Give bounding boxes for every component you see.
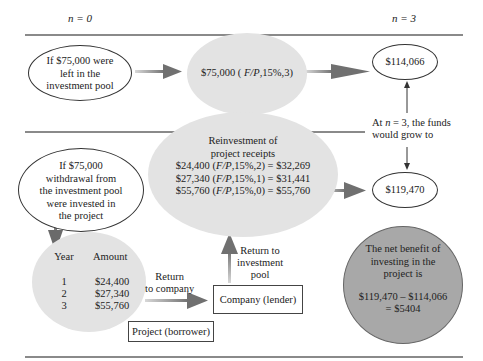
- ellipse-114066: $114,066: [372, 44, 438, 80]
- cashflow-row: 3 $55,760: [45, 300, 147, 312]
- arrow-annotation-down: [404, 147, 410, 170]
- arrow-return-to-pool: [221, 233, 238, 283]
- annotation-funds-grow: At n = 3, the funds would grow to: [372, 117, 451, 141]
- net-benefit-circle: The net benefit of investing in the proj…: [343, 226, 463, 344]
- ellipse-reinvestment: Reinvestment of project receipts $24,400…: [148, 112, 338, 237]
- reinvest-line-3: $55,760 (F/P,15%,0) = $55,760: [148, 185, 338, 198]
- ellipse-left-in-pool: If $75,000 were left in the investment p…: [28, 45, 132, 101]
- reinvest-line-2: $27,340 (F/P,15%,1) = $31,441: [148, 173, 338, 186]
- text-line: the project: [19, 210, 143, 223]
- arrow-annotation-up: [404, 81, 410, 113]
- text-line: the investment pool: [19, 185, 143, 198]
- reinvest-line-1: $24,400 (F/P,15%,2) = $32,269: [148, 160, 338, 173]
- year-cell: 1: [45, 276, 83, 288]
- text-line: project is: [344, 268, 462, 281]
- text-line: investment pool: [29, 80, 131, 93]
- value-119470: $119,470: [373, 184, 437, 197]
- arrow-left-to-middle: [135, 64, 182, 79]
- ellipse-invested-in-project: If $75,000 withdrawal from the investmen…: [18, 148, 144, 232]
- project-borrower-box: Project (borrower): [128, 321, 214, 342]
- net-benefit-result: = $5404: [344, 303, 462, 316]
- amount-cell: $27,340: [83, 288, 147, 300]
- text-line: Return: [145, 271, 194, 283]
- label-return-to-company: Return to company: [145, 271, 194, 295]
- header-amount: Amount: [83, 251, 145, 263]
- label-return-to-pool: Return to investment pool: [237, 245, 283, 281]
- year-cell: 3: [45, 300, 83, 312]
- text-line: left in the: [29, 68, 131, 81]
- text-line: The net benefit of: [344, 243, 462, 256]
- ellipse-119470: $119,470: [372, 172, 438, 208]
- year-cell: 2: [45, 288, 83, 300]
- cashflow-row: 2 $27,340: [45, 288, 147, 300]
- cashflow-header-row: Year Amount: [45, 251, 147, 263]
- annotation-line-1: At n = 3, the funds: [372, 117, 451, 129]
- text-line: If $75,000: [19, 160, 143, 173]
- amount-cell: $55,760: [83, 300, 147, 312]
- text-line: If $75,000 were: [29, 55, 131, 68]
- text-line: investment: [237, 257, 283, 269]
- text-line: to company: [145, 283, 194, 295]
- reinvest-title-2: project receipts: [148, 148, 338, 161]
- text-line: pool: [237, 269, 283, 281]
- future-value-formula: $75,000 ( F/P,15%,3): [187, 67, 307, 80]
- cashflow-table: Year Amount 1 $24,400 2 $27,340 3 $55,76…: [45, 251, 147, 312]
- ellipse-future-value: $75,000 ( F/P,15%,3): [187, 33, 307, 115]
- value-114066: $114,066: [373, 56, 437, 69]
- cashflow-row: 1 $24,400: [45, 276, 147, 288]
- text-line: withdrawal from: [19, 173, 143, 186]
- net-benefit-formula: $119,470 – $114,066: [344, 291, 462, 304]
- annotation-line-2: would grow to: [372, 129, 451, 141]
- arrow-middle-to-right: [305, 64, 370, 79]
- header-year: Year: [45, 251, 83, 263]
- text-line: investing in the: [344, 256, 462, 269]
- text-line: Return to: [237, 245, 283, 257]
- reinvest-title-1: Reinvestment of: [148, 135, 338, 148]
- amount-cell: $24,400: [83, 276, 147, 288]
- text-line: were invested in: [19, 198, 143, 211]
- company-lender-box: Company (lender): [213, 285, 303, 314]
